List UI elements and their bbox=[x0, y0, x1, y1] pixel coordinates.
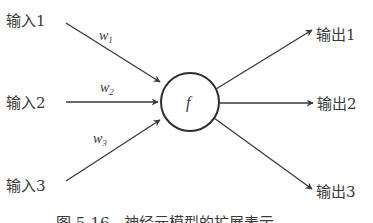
input-arrow-1 bbox=[66, 23, 160, 82]
output-label-1: 输出1 bbox=[316, 26, 356, 44]
weight-2: w2 bbox=[100, 80, 114, 97]
output-arrow-1 bbox=[216, 30, 312, 89]
input-label-2: 输入2 bbox=[6, 94, 46, 112]
neuron-diagram: 输入1 输入2 输入3 w1 w2 w3 f 输出1 输出2 输出3 图 5-1… bbox=[0, 0, 373, 223]
figure-caption: 图 5-16 神经元模型的扩展表示 bbox=[56, 214, 274, 223]
input-label-3: 输入3 bbox=[6, 177, 46, 195]
input-arrow-3 bbox=[66, 120, 160, 181]
output-label-3: 输出3 bbox=[316, 183, 356, 201]
input-label-1: 输入1 bbox=[6, 12, 46, 30]
output-label-2: 输出2 bbox=[317, 95, 357, 113]
output-arrow-3 bbox=[214, 118, 312, 189]
weight-3: w3 bbox=[93, 131, 107, 148]
weight-1: w1 bbox=[99, 28, 113, 45]
